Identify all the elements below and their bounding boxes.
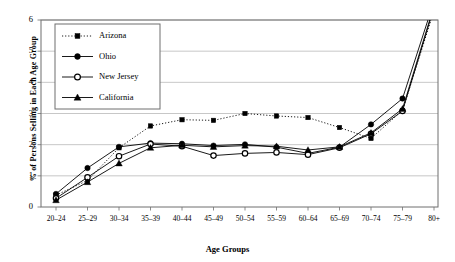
- series-markers: [54, 108, 405, 197]
- data-point: [211, 118, 215, 122]
- data-point: [148, 124, 152, 128]
- data-point: [180, 118, 184, 122]
- data-point: [242, 151, 247, 156]
- data-point: [274, 150, 279, 155]
- legend-marker-filled-circle: [75, 54, 81, 60]
- data-point: [211, 153, 216, 158]
- legend-marker-open-circle: [75, 74, 81, 80]
- data-point: [305, 152, 310, 157]
- data-point: [274, 114, 278, 118]
- legend-label-california: California: [99, 92, 133, 102]
- data-point: [400, 96, 405, 101]
- legend-marker-filled-square: [75, 34, 80, 39]
- data-point: [116, 144, 121, 149]
- data-point: [116, 153, 121, 158]
- data-point: [306, 115, 310, 119]
- legend-label-new-jersey: New Jersey: [99, 71, 138, 81]
- data-point: [337, 125, 341, 129]
- data-point: [85, 165, 90, 170]
- legend-label-arizona: Arizona: [99, 30, 126, 40]
- data-point: [243, 111, 247, 115]
- data-point: [116, 160, 123, 166]
- data-point: [368, 122, 373, 127]
- plot-area: [0, 0, 455, 262]
- chart-figure: % of Persons Selling in Each Age Group A…: [0, 0, 455, 262]
- legend-label-ohio: Ohio: [99, 51, 116, 61]
